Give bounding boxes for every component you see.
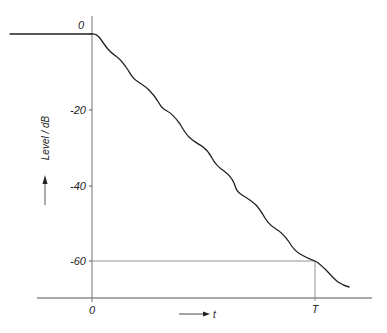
y-tick-label-m40: -40 (70, 180, 87, 192)
y-tick-label-m60: -60 (70, 255, 87, 267)
x-axis-label: t (213, 309, 217, 320)
y-tick-label-m20: -20 (70, 104, 87, 116)
y-tick-label-0: 0 (78, 19, 85, 31)
level-decay-chart: 0 -20 -40 -60 0 T t Level / dB (0, 0, 387, 333)
y-axis-direction-arrow (43, 175, 48, 205)
y-axis-label: Level / dB (40, 115, 51, 160)
x-axis-direction-arrow (179, 312, 210, 317)
x-tick-label-T: T (312, 303, 320, 315)
x-tick-label-0: 0 (89, 304, 96, 316)
decay-curve (10, 34, 349, 287)
